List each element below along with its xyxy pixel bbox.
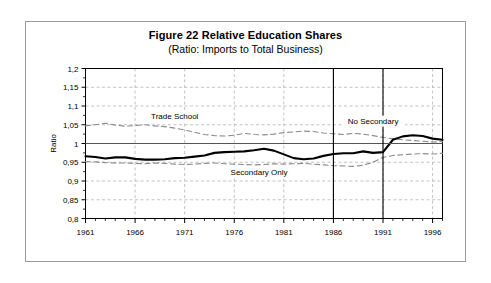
x-axis-tick-label: 1991 — [374, 228, 392, 237]
x-axis-tick-label: 1976 — [225, 228, 243, 237]
y-axis-tick-label: 1,15 — [63, 83, 79, 92]
y-axis-title: Ratio — [49, 134, 58, 153]
series-annotation-no-secondary: No Secondary — [348, 117, 399, 126]
y-axis-tick-label: 1,2 — [67, 65, 79, 74]
x-axis-tick-label: 1986 — [325, 228, 343, 237]
y-axis-tick-label: 1,1 — [67, 102, 79, 111]
series-annotation-secondary-only: Secondary Only — [231, 168, 288, 177]
x-axis-tick-label: 1971 — [176, 228, 194, 237]
y-axis-tick-label: 0,8 — [67, 215, 79, 224]
reference-line-layer — [86, 69, 443, 219]
series-annotation-trade-school: Trade School — [151, 112, 199, 121]
x-axis-tick-label: 1996 — [424, 228, 442, 237]
chart-plot: 1,21,151,11,0510,950,90,850,819611966197… — [0, 0, 491, 283]
x-axis-tick-label: 1961 — [77, 228, 95, 237]
y-axis-tick-label: 0,85 — [63, 196, 79, 205]
y-axis-tick-label: 0,95 — [63, 158, 79, 167]
y-axis-tick-label: 1,05 — [63, 121, 79, 130]
label-layer: Secondary OnlyTrade SchoolNo Secondary — [143, 111, 405, 179]
y-axis-tick-label: 1 — [74, 140, 79, 149]
x-axis-tick-label: 1966 — [126, 228, 144, 237]
x-axis-tick-label: 1981 — [275, 228, 293, 237]
figure-container: Figure 22 Relative Education Shares (Rat… — [0, 0, 491, 283]
y-axis-tick-label: 0,9 — [67, 177, 79, 186]
series-layer — [86, 123, 443, 166]
